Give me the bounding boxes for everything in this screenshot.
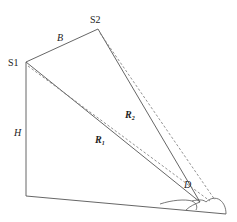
label-r2-sub: 2 <box>131 115 135 121</box>
label-s1: S1 <box>8 57 19 68</box>
terrain-profile <box>160 198 226 214</box>
range-r2-dashed-line <box>100 33 215 200</box>
range-r2-line <box>98 29 200 202</box>
label-baseline: B <box>57 32 63 43</box>
label-height: H <box>13 127 22 138</box>
range-r1-line <box>26 62 200 202</box>
label-s2: S2 <box>90 14 101 25</box>
label-r2: R2 <box>124 109 135 121</box>
label-r1: R1 <box>94 134 105 146</box>
range-r1-dashed-line <box>28 66 210 201</box>
interferometry-geometry-diagram: S1 S2 B H R1 R2 D <box>0 0 237 222</box>
label-target-d: D <box>183 179 192 190</box>
label-r1-sub: 1 <box>102 140 105 146</box>
